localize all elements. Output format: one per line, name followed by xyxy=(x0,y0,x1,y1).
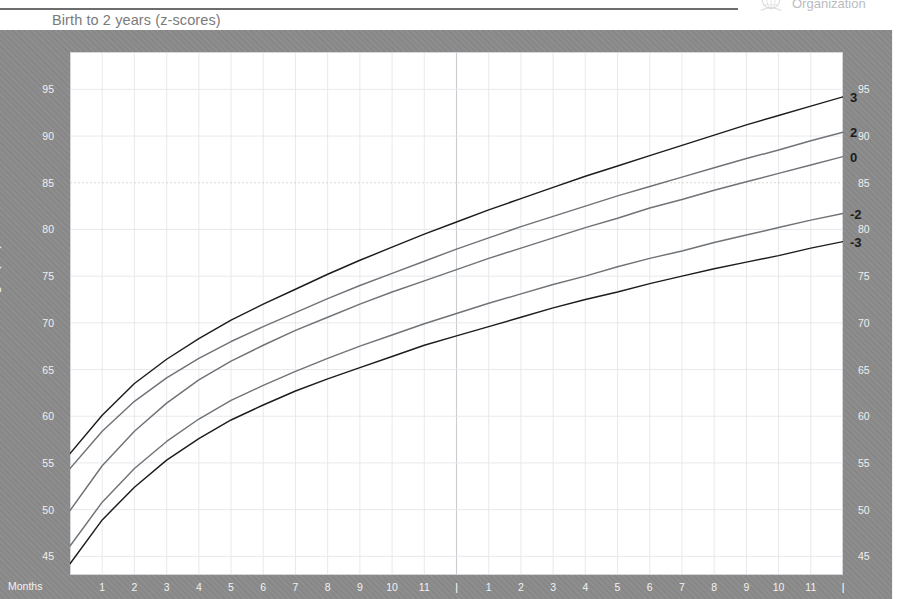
x-tick-month-4: 4 xyxy=(196,581,202,593)
y-tick-right-75: 75 xyxy=(858,270,892,282)
x-tick-month-10: 10 xyxy=(773,581,785,593)
y-tick-left-65: 65 xyxy=(20,364,54,376)
x-tick-month-3: 3 xyxy=(550,581,556,593)
header-divider xyxy=(0,8,738,10)
plot-svg xyxy=(70,52,843,575)
x-tick-month-11: 11 xyxy=(419,581,430,593)
y-tick-left-90: 90 xyxy=(20,130,54,142)
y-tick-right-85: 85 xyxy=(858,177,892,189)
x-tick-month-10: 10 xyxy=(386,581,398,593)
curve-label-z-3: -3 xyxy=(850,234,862,249)
y-tick-right-95: 95 xyxy=(858,83,892,95)
curve-label-z-2: -2 xyxy=(850,206,862,221)
x-tick-month-3: 3 xyxy=(164,581,170,593)
y-tick-right-55: 55 xyxy=(858,457,892,469)
y-tick-right-90: 90 xyxy=(858,130,892,142)
x-tick-month-4: 4 xyxy=(582,581,588,593)
x-tick-month-9: 9 xyxy=(357,581,363,593)
y-axis-title: Length (cm) xyxy=(0,244,1,316)
y-tick-left-45: 45 xyxy=(20,550,54,562)
who-emblem-icon xyxy=(754,0,788,18)
curve-label-z0: 0 xyxy=(850,149,857,164)
chart-subtitle: Birth to 2 years (z-scores) xyxy=(52,12,221,28)
x-tick-month-7: 7 xyxy=(679,581,685,593)
x-tick-month-2: 2 xyxy=(518,581,524,593)
x-tick-month-5: 5 xyxy=(615,581,621,593)
x-tick-month-8: 8 xyxy=(325,581,331,593)
x-tick-month-6: 6 xyxy=(647,581,653,593)
x-tick-month-1: 1 xyxy=(99,581,105,593)
growth-chart-page: Birth to 2 years (z-scores) Organization… xyxy=(0,0,902,599)
x-tick-month-11: 11 xyxy=(805,581,816,593)
y-tick-right-80: 80 xyxy=(858,223,892,235)
chart-frame: Length (cm) Months Age (completed months… xyxy=(0,30,893,599)
y-tick-left-95: 95 xyxy=(20,83,54,95)
x-tick-month-9: 9 xyxy=(743,581,749,593)
x-tick-year-mark-12: | xyxy=(455,581,458,593)
y-tick-left-80: 80 xyxy=(20,223,54,235)
x-tick-month-7: 7 xyxy=(293,581,299,593)
y-tick-right-60: 60 xyxy=(858,410,892,422)
y-tick-right-45: 45 xyxy=(858,550,892,562)
y-tick-left-60: 60 xyxy=(20,410,54,422)
x-tick-year-mark-24: | xyxy=(842,581,845,593)
y-tick-left-70: 70 xyxy=(20,317,54,329)
months-axis-label: Months xyxy=(8,580,42,592)
plot-area xyxy=(70,52,843,575)
y-tick-left-50: 50 xyxy=(20,504,54,516)
x-tick-month-5: 5 xyxy=(228,581,234,593)
y-tick-left-75: 75 xyxy=(20,270,54,282)
curve-label-z2: 2 xyxy=(850,125,857,140)
who-logo-text: Organization xyxy=(792,0,866,11)
x-tick-month-8: 8 xyxy=(711,581,717,593)
x-tick-month-6: 6 xyxy=(260,581,266,593)
x-tick-month-2: 2 xyxy=(131,581,137,593)
x-tick-month-1: 1 xyxy=(486,581,492,593)
curve-label-z3: 3 xyxy=(850,89,857,104)
y-tick-left-85: 85 xyxy=(20,177,54,189)
y-tick-right-65: 65 xyxy=(858,364,892,376)
y-tick-right-70: 70 xyxy=(858,317,892,329)
who-logo: Organization xyxy=(738,0,898,18)
y-tick-right-50: 50 xyxy=(858,504,892,516)
y-tick-left-55: 55 xyxy=(20,457,54,469)
